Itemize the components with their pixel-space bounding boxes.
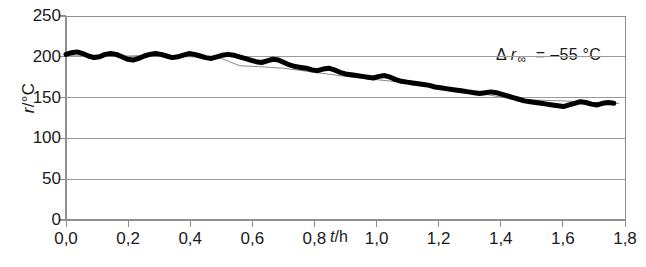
series-measured-temperature <box>66 52 614 107</box>
x-tick-label-1-4: 1,4 <box>477 230 525 247</box>
y-tick-label-50: 50 <box>15 170 61 187</box>
x-tick-label-0-6: 0,6 <box>228 230 276 247</box>
y-tick-label-0: 0 <box>15 211 61 228</box>
x-tick-label-0-8: 0,8 <box>290 230 338 247</box>
x-tick-label-1: 1,0 <box>353 230 401 247</box>
y-tick-label-200: 200 <box>15 48 61 65</box>
y-tick-label-100: 100 <box>15 129 61 146</box>
x-tick-label-0: 0,0 <box>42 230 90 247</box>
series-smoothed-trend-line <box>66 55 619 103</box>
plot-canvas <box>0 0 646 267</box>
y-tick-label-150: 150 <box>15 89 61 106</box>
x-tick-label-1-6: 1,6 <box>539 230 587 247</box>
x-tick-label-1-8: 1,8 <box>601 230 646 247</box>
x-tick-label-0-4: 0,4 <box>166 230 214 247</box>
x-tick-label-0-2: 0,2 <box>104 230 152 247</box>
x-tick-label-1-2: 1,2 <box>415 230 463 247</box>
chart-figure: r/°C t/h Δ r∞ = –55 °C 2502001501005000,… <box>0 0 646 267</box>
y-tick-label-250: 250 <box>15 7 61 24</box>
